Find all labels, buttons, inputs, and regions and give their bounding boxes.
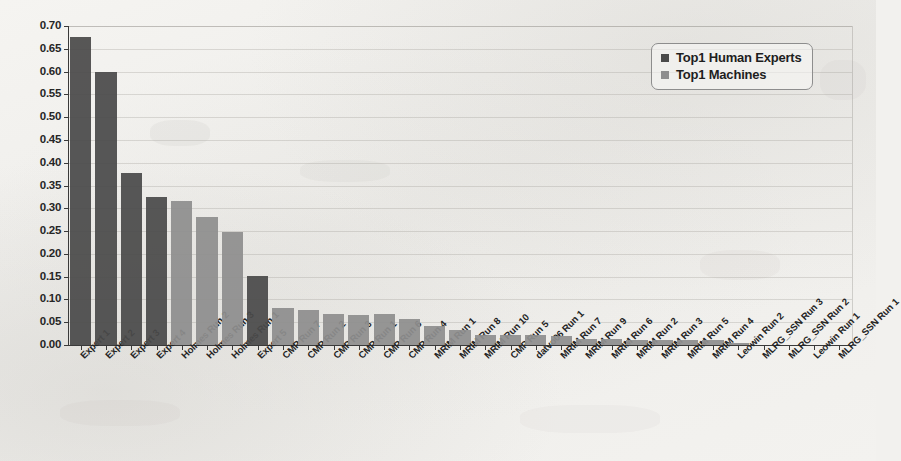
bar [146, 197, 167, 345]
y-axis-tick-label: 0.40 [8, 156, 61, 168]
legend-swatch-icon [661, 54, 669, 62]
y-axis-tick-label: 0.30 [8, 201, 61, 213]
y-axis-tick-label: 0.00 [8, 338, 61, 350]
bar [323, 314, 344, 345]
y-axis-tick-label: 0.65 [8, 42, 61, 54]
y-axis-tick-label: 0.55 [8, 87, 61, 99]
bar [196, 217, 217, 345]
legend: Top1 Human ExpertsTop1 Machines [651, 43, 813, 90]
bar [348, 315, 369, 345]
y-axis-tick-label: 0.20 [8, 247, 61, 259]
bar [171, 201, 192, 345]
y-axis-tick-label: 0.60 [8, 65, 61, 77]
gridline [68, 140, 852, 141]
bar [374, 314, 395, 345]
legend-swatch-icon [661, 71, 669, 79]
plot-frame-right [852, 26, 853, 345]
gridline [68, 94, 852, 95]
legend-label: Top1 Machines [676, 67, 766, 82]
legend-item[interactable]: Top1 Human Experts [661, 49, 801, 66]
bar [121, 173, 142, 345]
gridline [68, 186, 852, 187]
y-axis-tick-label: 0.15 [8, 270, 61, 282]
y-axis-tick-label: 0.05 [8, 315, 61, 327]
gridline [68, 163, 852, 164]
y-axis-tick-label: 0.50 [8, 110, 61, 122]
bar [272, 308, 293, 345]
y-axis-tick-label: 0.70 [8, 19, 61, 31]
bar [222, 232, 243, 345]
bar [70, 37, 91, 345]
bar [298, 310, 319, 345]
y-axis-tick-label: 0.25 [8, 224, 61, 236]
y-axis-tick-label: 0.10 [8, 292, 61, 304]
y-axis-tick-label: 0.45 [8, 133, 61, 145]
bar [95, 72, 116, 345]
gridline [68, 117, 852, 118]
plot-frame-top [68, 26, 852, 27]
bar [247, 276, 268, 345]
legend-item[interactable]: Top1 Machines [661, 66, 801, 83]
legend-label: Top1 Human Experts [676, 50, 801, 65]
y-axis-tick-label: 0.35 [8, 179, 61, 191]
